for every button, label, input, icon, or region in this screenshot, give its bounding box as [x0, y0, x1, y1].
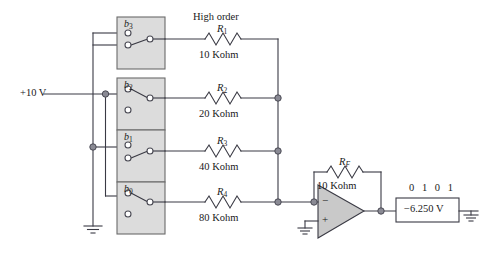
resistor-value-r3: 40 Kohm [199, 162, 238, 173]
node-ground-b1 [90, 144, 96, 150]
binary-code-label: 0 1 0 1 [409, 183, 455, 194]
switch-terminal-b0-out [147, 199, 153, 205]
source-label: +10 V [20, 88, 46, 99]
high-order-note: High order [193, 12, 239, 23]
switch-label-b3: b3 [124, 19, 133, 31]
resistor-label-r4: R4 [217, 187, 227, 199]
switch-label-b2: b2 [124, 80, 133, 92]
opamp-triangle [318, 185, 364, 238]
node-opamp-input [311, 199, 317, 205]
resistor-value-rf: 10 Kohm [317, 181, 356, 192]
circuit-schematic [0, 0, 491, 254]
resistor-label-r1: R1 [217, 24, 227, 36]
resistor-value-r1: 10 Kohm [199, 50, 238, 61]
opamp-noninverting-sign: + [322, 214, 328, 225]
circuit-diagram: +10 V High order b3 R1 10 Kohm b2 R2 20 … [0, 0, 491, 254]
resistor-label-r3: R3 [217, 136, 227, 148]
switch-label-b0: b0 [124, 184, 133, 196]
resistor-value-r4: 80 Kohm [199, 213, 238, 224]
switch-terminal-b1-out [147, 148, 153, 154]
node-sum-r3 [275, 148, 281, 154]
output-voltage-value: −6.250 V [404, 204, 444, 215]
resistor-value-r2: 20 Kohm [199, 109, 238, 120]
switch-terminal-b2-out [147, 95, 153, 101]
switch-label-b1: b1 [124, 132, 133, 144]
node-sum-r4 [275, 199, 281, 205]
opamp-inverting-sign: − [322, 195, 328, 206]
resistor-label-r2: R2 [217, 83, 227, 95]
switch-terminal-b2-lower [125, 107, 131, 113]
node-supply-b2 [102, 91, 108, 97]
node-sum-r2 [275, 95, 281, 101]
node-opamp-output [378, 208, 384, 214]
switch-terminal-b1-lower [125, 155, 131, 161]
switch-terminal-b3-lower [125, 42, 131, 48]
resistor-label-rf: RF [339, 157, 350, 169]
switch-terminal-b3-out [147, 36, 153, 42]
switch-terminal-b0-lower [125, 211, 131, 217]
